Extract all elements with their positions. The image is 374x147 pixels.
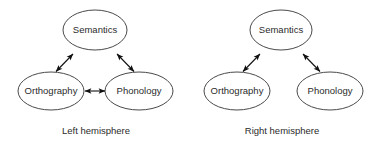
node-semantics-right[interactable]: Semantics — [250, 10, 312, 50]
diagram-canvas: Semantics Orthography Phonology Left hem… — [0, 0, 374, 147]
node-label: Phonology — [117, 85, 162, 96]
node-label: Semantics — [73, 24, 118, 35]
connector-semantics-phonology-right — [303, 54, 320, 72]
triangle-model-figure: Semantics Orthography Phonology Left hem… — [0, 0, 374, 147]
node-label: Semantics — [259, 24, 304, 35]
node-phonology-right[interactable]: Phonology — [297, 72, 363, 110]
node-semantics-left[interactable]: Semantics — [63, 10, 127, 50]
node-phonology-left[interactable]: Phonology — [105, 72, 173, 110]
node-orthography-left[interactable]: Orthography — [18, 72, 84, 110]
connector-orthography-semantics-right — [243, 54, 260, 72]
panel-left-hemisphere: Semantics Orthography Phonology Left hem… — [18, 10, 173, 136]
node-label: Phonology — [308, 85, 353, 96]
caption-left-hemisphere: Left hemisphere — [62, 125, 130, 136]
node-label: Orthography — [25, 85, 78, 96]
panel-right-hemisphere: Semantics Orthography Phonology Right he… — [204, 10, 363, 136]
connector-semantics-phonology-left — [117, 54, 134, 72]
node-label: Orthography — [211, 85, 264, 96]
connector-orthography-semantics-left — [56, 54, 73, 72]
node-orthography-right[interactable]: Orthography — [204, 72, 270, 110]
caption-right-hemisphere: Right hemisphere — [245, 125, 319, 136]
